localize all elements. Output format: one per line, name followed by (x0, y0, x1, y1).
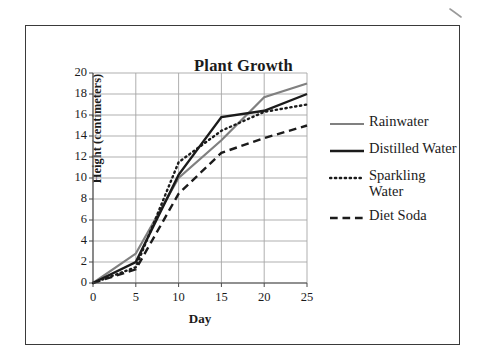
scan-artifact-mark (449, 8, 463, 18)
plot-svg (93, 73, 307, 283)
data-series-group (93, 84, 307, 284)
legend-label: Distilled Water (369, 141, 457, 157)
legend-swatch-dashed-line-icon (329, 210, 365, 226)
legend: RainwaterDistilled WaterSparkling WaterD… (329, 114, 457, 235)
y-tick-label: 6 (47, 213, 87, 226)
legend-swatch-dotted-line-icon (329, 170, 365, 186)
series-line-distilled-water (93, 94, 307, 283)
x-tick-label: 15 (206, 291, 236, 304)
y-tick-label: 14 (47, 129, 87, 142)
chart-frame: Plant Growth Height (centimeters) Day 02… (25, 25, 460, 345)
axis-tick-marks (89, 73, 307, 287)
y-tick-label: 20 (47, 66, 87, 79)
y-tick-label: 16 (47, 108, 87, 121)
y-tick-label: 0 (47, 276, 87, 289)
x-tick-label: 10 (164, 291, 194, 304)
series-line-rainwater (93, 84, 307, 284)
legend-item[interactable]: Sparkling Water (329, 168, 457, 199)
x-tick-label: 0 (78, 291, 108, 304)
gridlines (93, 73, 307, 283)
legend-label: Sparkling Water (369, 168, 457, 199)
y-tick-label: 12 (47, 150, 87, 163)
series-line-diet-soda (93, 126, 307, 284)
series-line-sparkling-water (93, 105, 307, 284)
x-tick-label: 20 (249, 291, 279, 304)
y-tick-label: 10 (47, 171, 87, 184)
legend-label: Diet Soda (369, 208, 427, 224)
y-tick-label: 4 (47, 234, 87, 247)
legend-item[interactable]: Rainwater (329, 114, 457, 132)
plot-area (93, 73, 307, 283)
legend-item[interactable]: Distilled Water (329, 141, 457, 159)
legend-item[interactable]: Diet Soda (329, 208, 457, 226)
y-tick-label: 18 (47, 87, 87, 100)
legend-swatch-solid-line-icon (329, 116, 365, 132)
x-tick-label: 25 (292, 291, 322, 304)
x-axis-label: Day (93, 311, 307, 327)
legend-label: Rainwater (369, 114, 429, 130)
screenshot-root: Plant Growth Height (centimeters) Day 02… (0, 0, 482, 363)
x-tick-label: 5 (121, 291, 151, 304)
y-tick-label: 8 (47, 192, 87, 205)
y-tick-label: 2 (47, 255, 87, 268)
legend-swatch-solid-line-icon (329, 143, 365, 159)
